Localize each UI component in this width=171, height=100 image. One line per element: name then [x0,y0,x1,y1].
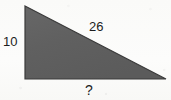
side-label-vertical-leg: 10 [3,35,17,48]
right-triangle-polygon [25,6,166,79]
triangle-figure: 10 26 ? [0,0,171,100]
side-label-unknown-base: ? [85,83,93,97]
side-label-hypotenuse: 26 [89,20,103,33]
